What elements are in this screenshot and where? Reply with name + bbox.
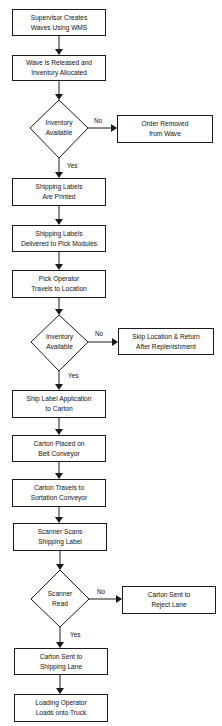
label-yes-1: Yes [67,162,77,169]
step-labels-printed: Shipping Labels Are Printed [12,178,106,206]
flowchart-connectors [0,0,222,726]
step-wave-released: Wave Is Released and Inventory Allocated [12,55,106,81]
label-yes-2: Yes [68,372,78,379]
step-reject-lane: Carton Sent to Reject Lane [122,586,216,614]
label-no-3: No [97,588,105,595]
step-create-waves: Supervisor Creates Waves Using WMS [12,9,106,36]
step-pick-operator-travels: Pick Operator Travels to Location [12,270,106,298]
decision-inventory-available-1: Inventory Available [30,114,88,142]
step-ship-label-application: Ship Label Application to Carton [12,390,106,418]
step-shipping-lane: Carton Sent to Shipping Lane [14,648,108,675]
step-scanner-scans: Scanner Scans Shipping Label [13,523,107,551]
step-loading-operator: Loading Operator Loads onto Truck [14,694,108,722]
label-yes-3: Yes [70,631,80,638]
step-carton-travels: Carton Travels to Sortation Conveyor [12,479,106,507]
decision-inventory-available-2: Inventory Available [31,328,88,356]
step-order-removed: Order Removed from Wave [117,115,213,143]
step-labels-delivered: Shipping Labels Delivered to Pick Module… [12,225,106,252]
label-no-1: No [94,117,102,124]
step-carton-placed: Carton Placed on Belt Conveyor [12,435,106,462]
step-skip-location: Skip Location & Return After Replenishme… [118,328,214,355]
label-no-2: No [95,330,103,337]
decision-scanner-read: Scanner Read [31,585,89,613]
